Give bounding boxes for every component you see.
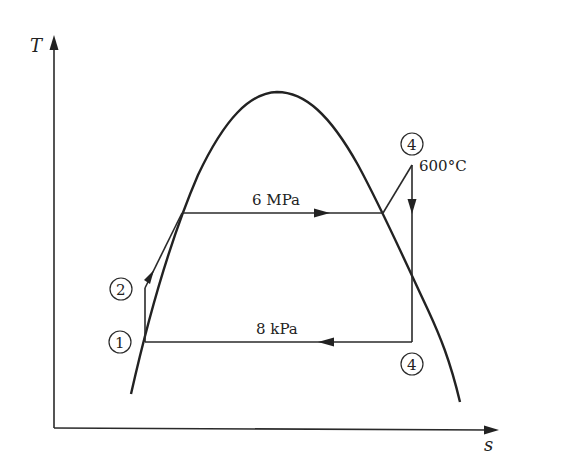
state-top-label: 4: [407, 136, 417, 154]
state-2-marker: 2: [110, 278, 132, 300]
arrow-low-pressure-icon: [318, 338, 334, 347]
state-bottom-label: 4: [407, 356, 417, 374]
state-2-label: 2: [116, 281, 126, 299]
y-axis-arrow-icon: [50, 35, 59, 50]
axes: T s: [30, 35, 499, 455]
low-pressure-label: 8 kPa: [256, 320, 298, 338]
y-axis-label: T: [30, 35, 44, 56]
cycle: 6 MPa 8 kPa: [144, 165, 417, 347]
state-1-label: 1: [115, 334, 125, 352]
arrow-turbine-icon: [408, 199, 417, 214]
superheat-temperature-label: 600°C: [419, 157, 467, 175]
state-top-marker: 4: [401, 133, 423, 155]
arrow-2-icon: [144, 270, 154, 284]
arrow-high-pressure-icon: [314, 209, 330, 218]
state-1-marker: 1: [109, 331, 131, 353]
x-axis: [54, 428, 488, 430]
ts-diagram: T s 6 MPa 8 kPa 1 2 4 4: [0, 0, 562, 468]
high-pressure-label: 6 MPa: [252, 191, 300, 209]
x-axis-label: s: [484, 434, 493, 455]
superheat-line: [383, 165, 412, 213]
state-bottom-marker: 4: [401, 353, 423, 375]
